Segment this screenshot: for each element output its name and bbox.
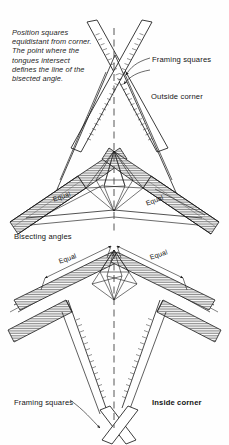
label-outside-corner: Outside corner [151,92,203,101]
label-inside-corner: Inside corner [152,398,202,407]
instruction-caption: Position squares equidistant from corner… [12,28,94,83]
illustration-page: Position squares equidistant from corner… [0,0,229,445]
label-framing-squares-bottom: Framing squares [14,398,73,407]
label-framing-squares-top: Framing squares [152,55,211,64]
label-bisecting-angles: Bisecting angles [14,232,72,241]
